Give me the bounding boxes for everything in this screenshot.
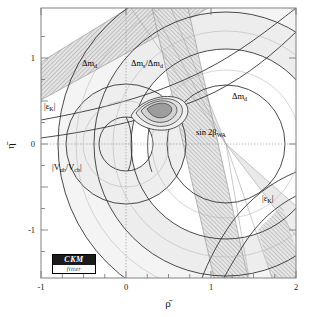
ckm-fitter-logo-top: CKM [53,255,95,265]
ckm-fitter-logo-bottom: fitter [53,265,95,273]
x-axis-title: ρ̄ [165,297,172,309]
y-axis-title: η̄ [4,141,16,149]
ckm-fitter-logo: CKM fitter [52,254,96,274]
y-tick-label: 1 [31,53,35,63]
y-tick-labels: -1 0 1 [28,53,35,235]
figure-root: -1 0 1 2 -1 0 1 ρ̄ η̄ Δmd Δms/Δmd Δmd [0,0,314,317]
annotation-delta-ms-over-md: Δms/Δmd [131,58,163,69]
x-tick-label: -1 [37,282,44,292]
x-tick-label: 0 [124,282,128,292]
x-tick-labels: -1 0 1 2 [37,282,298,292]
svg-text:Δms/Δmd: Δms/Δmd [131,58,163,69]
y-tick-label: 0 [31,139,35,149]
y-tick-label: -1 [28,225,35,235]
ckm-plot-svg: -1 0 1 2 -1 0 1 ρ̄ η̄ Δmd Δms/Δmd Δmd [0,0,314,317]
x-tick-label: 1 [209,282,213,292]
x-tick-label: 2 [294,282,298,292]
